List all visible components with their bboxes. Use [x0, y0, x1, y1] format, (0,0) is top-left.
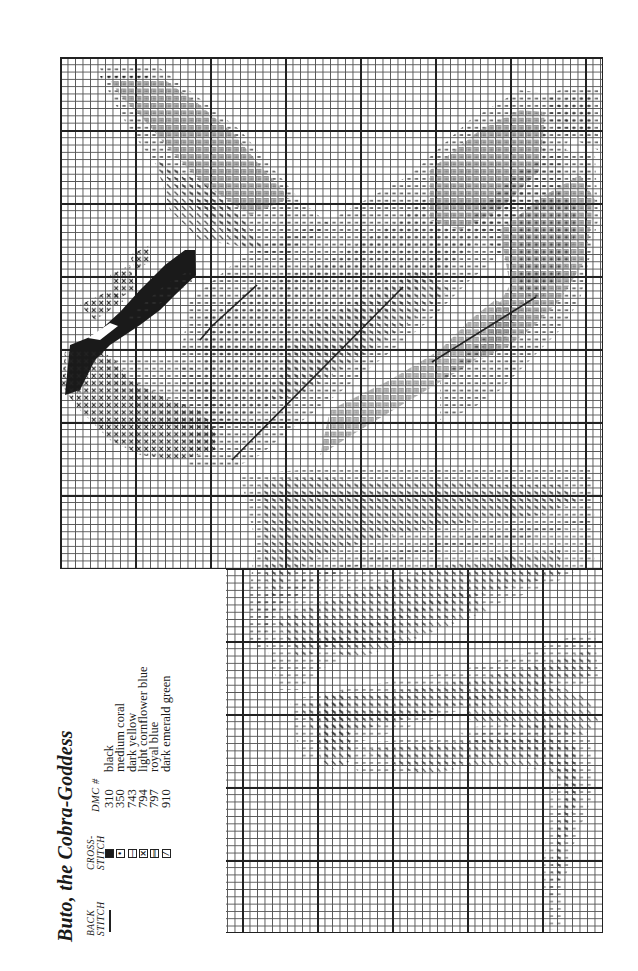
x-cross-icon: ×: [139, 849, 148, 858]
chart-title: Buto, the Cobra-Goddess: [54, 730, 77, 942]
chart-key: Buto, the Cobra-Goddess BACK STITCH CROS…: [48, 682, 178, 952]
cross-stitch-chart: Buto, the Cobra-Goddess BACK STITCH CROS…: [0, 0, 638, 971]
key-row: ⁄ 910 dark emerald green: [161, 682, 172, 952]
dmc-number: 910: [161, 789, 172, 808]
single-bar-icon: |: [128, 849, 137, 858]
color-name: dark emerald green: [161, 676, 172, 772]
diagonal-slash-icon: ⁄: [162, 849, 171, 858]
dmc-header: DMC #: [91, 778, 101, 812]
double-bar-icon: ‖: [150, 849, 159, 858]
dot-icon: •: [116, 849, 125, 858]
back-stitch-header: BACK STITCH: [86, 896, 106, 936]
solid-square-icon: [105, 849, 114, 858]
cross-stitch-header: CROSS-STITCH: [86, 830, 106, 870]
